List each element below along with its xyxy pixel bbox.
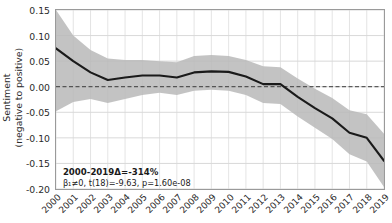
y-tick-label: -0.20: [22, 184, 50, 195]
y-axis-tick-labels: 0.150.100.050.00-0.05-0.10-0.15-0.20: [22, 0, 50, 223]
y-tick-label: 0.00: [22, 81, 50, 92]
stat-annotation: β₁≠0, t(18)=-9.63, p=1.60e-08: [63, 178, 191, 188]
y-tick-label: 0.15: [22, 5, 50, 16]
y-tick-label: -0.10: [22, 132, 50, 143]
y-tick-label: 0.05: [22, 56, 50, 67]
y-tick-label: -0.05: [22, 107, 50, 118]
confidence-band: [56, 10, 384, 187]
y-tick-label: 0.10: [22, 30, 50, 41]
x-axis-tick-labels: 2000200120022003200420052006200720082009…: [55, 190, 385, 223]
sentiment-trend-chart: Sentiment (negative to positive) 0.150.1…: [0, 0, 392, 223]
delta-annotation: 2000-2019Δ=-314%: [63, 167, 158, 177]
plot-canvas: [56, 10, 384, 189]
y-axis-title-line1: Sentiment: [1, 73, 12, 121]
y-tick-label: -0.15: [22, 158, 50, 169]
plot-area: 2000-2019Δ=-314% β₁≠0, t(18)=-9.63, p=1.…: [55, 9, 385, 190]
